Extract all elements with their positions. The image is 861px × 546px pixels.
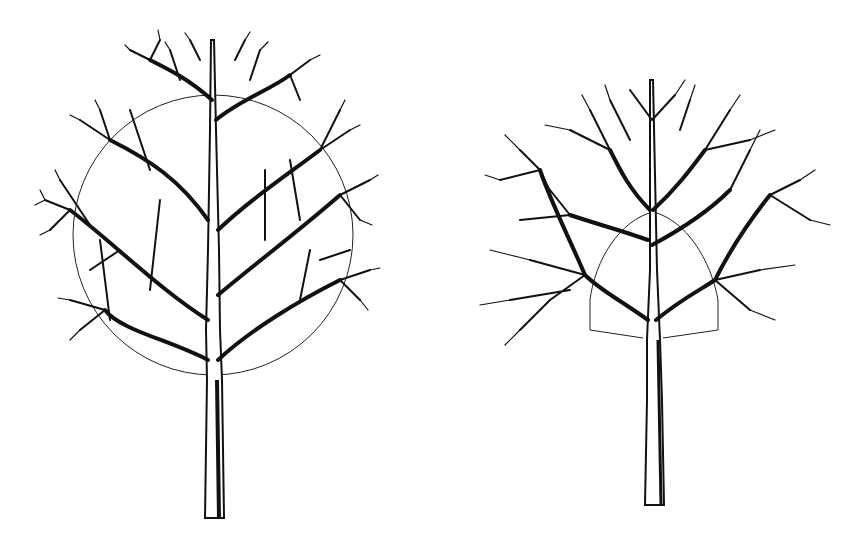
trunk-shading <box>217 380 219 518</box>
tree-illustration-spherical-crown <box>0 0 430 546</box>
tree-right-drawing <box>430 0 861 546</box>
tree-left-drawing <box>0 0 430 546</box>
trunk <box>205 40 224 518</box>
main-branches <box>70 60 340 360</box>
tree-illustration-open-crown <box>430 0 861 546</box>
